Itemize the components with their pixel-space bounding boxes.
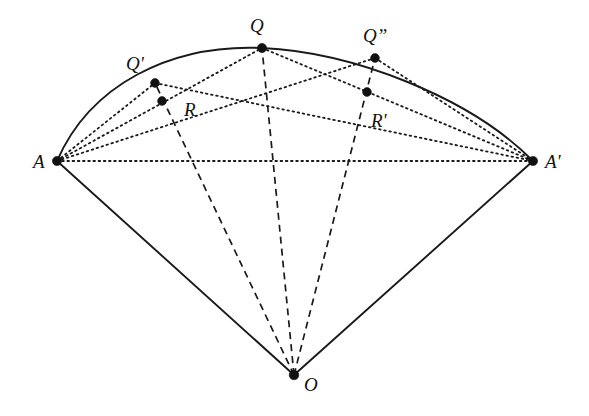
point-label-R-base: R — [184, 99, 196, 120]
point-label-Qdprime-base: Q — [363, 25, 377, 46]
vertex-dot-Q — [257, 43, 266, 52]
vertex-dot-Aprime — [528, 156, 537, 165]
point-label-R: R — [184, 100, 196, 119]
radius-O-Q — [262, 48, 294, 375]
radius-O-Qprime — [155, 83, 294, 375]
diagram-canvas — [0, 0, 589, 416]
vertex-dot-Rprime — [363, 88, 372, 97]
point-label-A: A — [33, 152, 45, 171]
point-label-Qdprime-prime: ” — [377, 25, 388, 46]
point-label-Qprime-base: Q — [126, 53, 140, 74]
point-label-O: O — [304, 375, 318, 394]
point-label-Aprime-base: A — [545, 151, 557, 172]
point-label-O-base: O — [304, 374, 318, 395]
geometry-figure: AA'QQ'Q”RR'O — [0, 0, 589, 416]
vertex-dots-layer — [52, 43, 537, 379]
segments-layer — [57, 48, 533, 375]
vertex-dot-Qdprime — [371, 54, 380, 63]
point-label-Rprime-prime: ' — [383, 110, 388, 131]
chord-Qprime-Aprime — [155, 83, 533, 161]
radius-O-Aprime — [294, 161, 533, 375]
point-label-A-base: A — [33, 151, 45, 172]
chord-Qdprime-Aprime — [375, 58, 533, 161]
point-label-Q: Q — [250, 16, 264, 35]
point-label-Qprime-prime: ' — [140, 53, 145, 74]
radius-O-Qdprime — [294, 58, 375, 375]
radius-O-A — [57, 161, 294, 375]
vertex-dot-Qprime — [151, 79, 160, 88]
point-label-Rprime-base: R — [371, 110, 383, 131]
point-label-Aprime-prime: ' — [557, 151, 562, 172]
chord-Q-Aprime — [262, 48, 533, 161]
point-label-Aprime: A' — [545, 152, 561, 171]
vertex-dot-R — [158, 97, 167, 106]
point-label-Qdprime: Q” — [363, 26, 388, 45]
point-label-Rprime: R' — [371, 111, 387, 130]
point-label-Qprime: Q' — [126, 54, 144, 73]
vertex-dot-O — [289, 370, 299, 380]
vertex-dot-A — [52, 156, 61, 165]
point-label-Q-base: Q — [250, 15, 264, 36]
